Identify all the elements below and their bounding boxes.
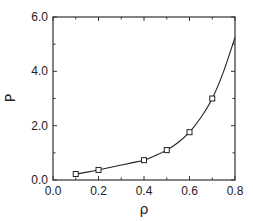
plot-border	[53, 17, 235, 180]
square-marker	[187, 130, 192, 135]
square-marker	[142, 158, 147, 163]
plot-frame	[53, 17, 235, 180]
fit-curve-path	[76, 37, 235, 174]
x-tick-label: 0.6	[181, 184, 198, 198]
y-axis-label: P	[2, 94, 18, 102]
square-marker	[96, 167, 101, 172]
square-marker	[164, 148, 169, 153]
data-markers	[73, 96, 215, 177]
y-tick-label: 2.0	[31, 119, 48, 133]
tick-labels: 0.00.20.40.60.80.02.04.06.0	[31, 10, 243, 198]
y-tick-label: 0.0	[31, 173, 48, 187]
y-tick-label: 4.0	[31, 64, 48, 78]
x-axis-label: ρ	[140, 201, 149, 217]
x-tick-label: 0.8	[227, 184, 244, 198]
x-tick-label: 0.2	[90, 184, 107, 198]
axis-ticks	[53, 17, 235, 180]
y-tick-label: 6.0	[31, 10, 48, 24]
chart-canvas: 0.00.20.40.60.80.02.04.06.0 ρ P	[0, 0, 253, 221]
square-marker	[73, 172, 78, 177]
fit-curve	[76, 37, 235, 174]
x-tick-label: 0.4	[136, 184, 153, 198]
square-marker	[210, 96, 215, 101]
